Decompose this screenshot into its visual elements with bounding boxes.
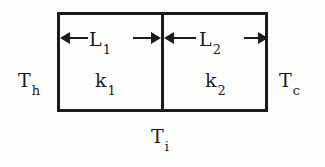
label-interface-temperature-base: T — [151, 125, 164, 147]
label-thickness-2: L2 — [199, 30, 220, 52]
label-thickness-2-subscript: 2 — [213, 42, 221, 57]
label-interface-temperature-subscript: i — [165, 139, 169, 154]
label-conductivity-2-subscript: 2 — [218, 83, 226, 98]
label-cold-temperature: Tc — [279, 71, 299, 93]
label-conductivity-2-base: k — [205, 69, 217, 91]
label-conductivity-2: k2 — [205, 71, 225, 93]
arrow-right-icon — [151, 32, 161, 44]
label-thickness-2-base: L — [199, 28, 212, 50]
label-hot-temperature-subscript: h — [32, 83, 40, 98]
label-conductivity-1-subscript: 1 — [108, 83, 116, 98]
dimension-line-left — [62, 37, 88, 39]
label-thickness-1-subscript: 1 — [103, 42, 111, 57]
label-cold-temperature-base: T — [279, 69, 292, 91]
label-hot-temperature-base: T — [18, 69, 31, 91]
layer-interface-line — [161, 12, 164, 112]
label-thickness-1: L1 — [89, 30, 110, 52]
label-conductivity-1: k1 — [95, 71, 115, 93]
dimension-line-left — [166, 37, 196, 39]
label-hot-temperature: Th — [18, 71, 39, 93]
arrow-right-icon — [258, 32, 268, 44]
label-thickness-1-base: L — [89, 28, 102, 50]
label-conductivity-1-base: k — [95, 69, 107, 91]
label-interface-temperature: Ti — [151, 127, 168, 149]
label-cold-temperature-subscript: c — [293, 83, 300, 98]
composite-wall-diagram: L1 L2 k1 k2 Th Tc Ti — [0, 0, 325, 167]
